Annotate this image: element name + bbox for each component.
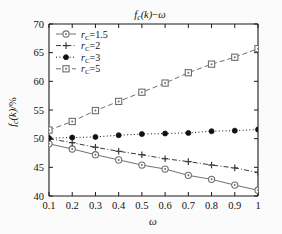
x-tick-label: 0.1 [42,200,55,211]
data-point-filled-circle [64,55,69,60]
data-point-open-square [139,89,145,95]
x-tick-label: 0.3 [89,200,102,211]
y-tick-label: 45 [34,162,45,173]
data-point-open-circle [185,172,191,178]
data-point-filled-circle [93,134,98,139]
data-point-open-square [162,80,168,86]
data-point-open-circle [162,166,168,172]
chart-title: fc(k)−ω [134,9,165,22]
data-point-open-square [63,66,69,72]
x-tick-label: 0.7 [182,200,195,211]
y-tick-label: 65 [34,47,45,58]
x-tick-label: 0.5 [135,200,148,211]
data-point-open-circle [63,31,69,37]
y-tick-label: 70 [34,19,45,30]
data-point-filled-circle [116,133,121,138]
x-tick-label: 0.4 [112,200,126,211]
x-axis-label: ω [149,215,157,227]
x-tick-labels: 0.10.20.30.40.50.60.70.80.91 [42,200,260,211]
data-point-open-circle [139,162,145,168]
data-point-open-circle [232,182,238,188]
x-tick-label: 0.8 [205,200,218,211]
chart-canvas: 0.10.20.30.40.50.60.70.80.91 40455055606… [0,0,282,234]
data-point-filled-circle [163,131,168,136]
data-point-filled-circle [47,136,52,141]
data-point-open-circle [69,146,75,152]
data-point-filled-circle [256,127,261,132]
x-tick-label: 0.9 [228,200,241,211]
y-tick-labels: 40455055606570 [34,19,45,202]
data-point-open-circle [255,187,261,193]
y-tick-label: 55 [34,105,45,116]
y-tick-label: 40 [34,191,45,202]
data-point-filled-circle [209,129,214,134]
data-point-open-square [208,61,214,67]
data-point-open-square [46,127,52,133]
data-point-open-square [255,46,261,52]
y-tick-label: 50 [34,133,45,144]
x-tick-label: 0.2 [66,200,79,211]
data-point-open-circle [92,152,98,158]
data-point-filled-circle [70,135,75,140]
y-tick-label: 60 [34,76,45,87]
svg-text:fc(k)−ω: fc(k)−ω [134,9,165,22]
data-point-open-square [232,54,238,60]
data-point-open-circle [208,176,214,182]
data-point-filled-circle [186,130,191,135]
data-point-filled-circle [232,128,237,133]
data-point-open-circle [116,157,122,163]
x-tick-label: 1 [255,200,260,211]
svg-text:fc(k)/%: fc(k)/% [7,97,20,127]
y-axis-label: fc(k)/% [7,97,20,127]
data-point-filled-circle [139,132,144,137]
x-tick-label: 0.6 [159,200,172,211]
data-point-open-square [69,118,75,124]
data-point-open-square [92,107,98,113]
data-point-open-square [185,70,191,76]
chart-figure: 0.10.20.30.40.50.60.70.80.91 40455055606… [0,0,282,234]
data-point-open-square [116,98,122,104]
